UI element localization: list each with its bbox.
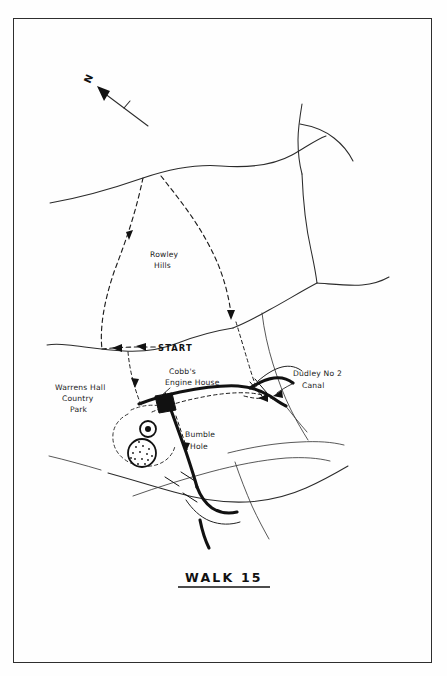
label-rowley-hills-line1: Rowley: [150, 250, 179, 259]
walk-map-figure: N: [0, 0, 447, 676]
route-left-leg: [101, 178, 143, 349]
walking-route: [101, 176, 276, 452]
road-mid-descend: [302, 174, 317, 283]
label-cobbs-line1: Cobb's: [169, 367, 196, 376]
north-label: N: [82, 73, 95, 85]
road-canal-east-link: [284, 404, 307, 432]
map-drawing: N: [0, 0, 447, 676]
label-warrens-hall-line2: Country: [62, 394, 94, 403]
road-upper-main: [50, 136, 326, 203]
road-lower-left-edge: [49, 456, 101, 470]
canal-leader-arrow: [273, 390, 283, 398]
road-lower-diagonal: [108, 466, 348, 502]
label-bumble-hole-line2: Hole: [190, 442, 208, 451]
route-arrow-engine: [131, 378, 139, 388]
label-dudley-canal-line1: Dudley No 2: [293, 369, 342, 378]
road-network: [47, 104, 389, 539]
park-boundary-north: [131, 405, 160, 410]
route-east-return: [236, 322, 257, 389]
label-bumble-hole-line1: Bumble: [185, 430, 215, 439]
canal-south-lower: [197, 487, 237, 513]
canal-far-south: [200, 520, 209, 548]
canal-leader-line: [277, 384, 292, 393]
label-cobbs-line2: Engine House: [165, 378, 220, 387]
pond-small-center: [145, 426, 151, 432]
road-to-start: [233, 283, 317, 328]
label-dudley-canal-line2: Canal: [302, 381, 325, 390]
route-start-connector: [102, 347, 157, 349]
ponds: [128, 421, 156, 467]
label-warrens-hall-line1: Warrens Hall: [55, 383, 105, 392]
map-labels: Rowley Hills START Cobb's Engine House W…: [55, 250, 342, 451]
north-arrow: N: [82, 73, 148, 126]
figure-title-group: WALK 15: [178, 570, 270, 587]
route-arrow-right-down: [227, 310, 235, 320]
label-warrens-hall-line3: Park: [70, 405, 88, 414]
figure-title: WALK 15: [185, 570, 263, 585]
label-start: START: [158, 343, 193, 353]
road-bumble-east: [228, 442, 344, 453]
route-direction-arrows: [112, 230, 268, 452]
label-rowley-hills-line2: Hills: [154, 261, 171, 270]
route-arrow-towpath: [258, 394, 268, 402]
road-east-branch: [317, 277, 389, 285]
road-northeast: [300, 124, 353, 161]
road-north-spur: [298, 104, 302, 174]
route-right-leg: [161, 176, 231, 318]
